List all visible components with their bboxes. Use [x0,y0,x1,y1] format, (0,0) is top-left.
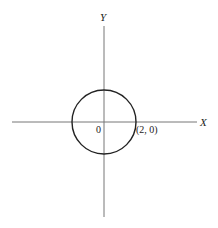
x-axis-label: X [199,116,208,128]
origin-label: 0 [96,124,101,135]
point-label: (2, 0) [136,124,158,136]
diagram-canvas: Y X 0 (2, 0) [0,0,218,228]
y-axis-label: Y [100,11,108,23]
